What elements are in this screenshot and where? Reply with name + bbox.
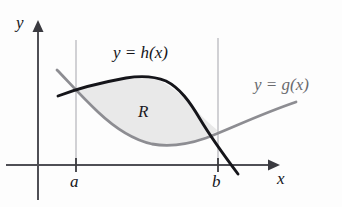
tick-label-b: b [212,173,221,190]
y-axis-label: y [16,14,24,31]
region-label-R: R [138,103,148,120]
region-between-curves-diagram [0,0,342,207]
x-axis-label: x [277,170,285,187]
tick-label-a: a [70,173,79,190]
figure-container: y x y = h(x) y = g(x) R a b [0,0,342,207]
y-axis-arrowhead [33,20,44,32]
curve-label-g: y = g(x) [254,76,309,93]
curve-label-h: y = h(x) [113,44,168,61]
